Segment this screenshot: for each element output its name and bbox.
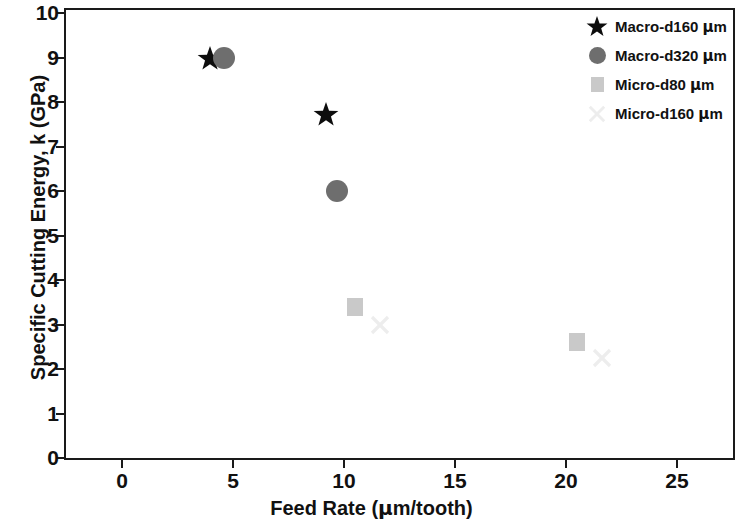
x-tick-label: 0 bbox=[92, 470, 152, 491]
legend-marker-circle-icon bbox=[583, 43, 611, 69]
data-point-circle bbox=[326, 180, 348, 202]
x-tick-label: 15 bbox=[425, 470, 485, 491]
legend-label: Micro-d80 μm bbox=[611, 76, 714, 94]
x-tick-mark bbox=[565, 460, 567, 468]
legend-item[interactable]: Micro-d160 μm bbox=[583, 99, 733, 128]
data-point-circle bbox=[213, 47, 235, 69]
x-tick-mark bbox=[454, 460, 456, 468]
legend-item[interactable]: Macro-d160 μm bbox=[583, 12, 733, 41]
data-point-cross bbox=[370, 315, 390, 335]
x-tick-mark bbox=[343, 460, 345, 468]
legend: Macro-d160 μmMacro-d320 μmMicro-d80 μmMi… bbox=[583, 12, 733, 128]
x-tick-label: 20 bbox=[536, 470, 596, 491]
legend-label: Macro-d160 μm bbox=[611, 18, 727, 36]
data-point-square bbox=[347, 298, 363, 316]
legend-marker-cross-icon bbox=[583, 101, 611, 127]
scatter-chart-figure: 012345678910 Specific Cutting Energy, k … bbox=[0, 0, 743, 529]
legend-marker-star-icon bbox=[583, 14, 611, 40]
data-point-cross bbox=[592, 348, 612, 368]
y-axis-title: Specific Cutting Energy, k (GPa) bbox=[27, 18, 50, 438]
legend-label: Macro-d320 μm bbox=[611, 47, 727, 65]
x-tick-mark bbox=[232, 460, 234, 468]
y-tick-label: 0 bbox=[19, 447, 59, 468]
legend-item[interactable]: Micro-d80 μm bbox=[583, 70, 733, 99]
legend-label: Micro-d160 μm bbox=[611, 105, 723, 123]
x-tick-label: 25 bbox=[647, 470, 707, 491]
x-tick-mark bbox=[121, 460, 123, 468]
x-axis-title: Feed Rate (μm/tooth) bbox=[0, 496, 743, 520]
x-tick-label: 5 bbox=[203, 470, 263, 491]
x-tick-label: 10 bbox=[314, 470, 374, 491]
legend-item[interactable]: Macro-d320 μm bbox=[583, 41, 733, 70]
x-tick-mark bbox=[676, 460, 678, 468]
legend-marker-square-icon bbox=[583, 72, 611, 98]
data-point-square bbox=[569, 333, 585, 351]
